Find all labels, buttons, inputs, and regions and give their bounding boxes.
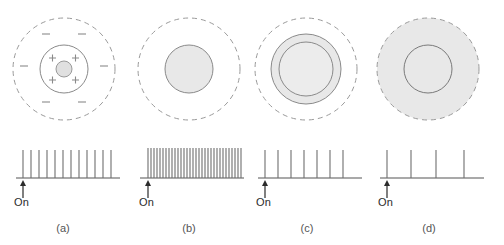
panel-c: On (c) xyxy=(244,0,370,245)
spike-train-c xyxy=(244,140,370,200)
stimulus-diagram-a xyxy=(0,8,126,130)
spikes-a xyxy=(23,150,111,178)
spikes-d xyxy=(387,150,464,178)
spike-train-a xyxy=(0,140,126,200)
onset-label-b: On xyxy=(139,196,154,208)
receptive-field-figure: On (a) xyxy=(0,0,504,245)
panel-label-b: (b) xyxy=(126,222,252,234)
onset-label-d: On xyxy=(378,196,393,208)
stimulus-diagram-b xyxy=(126,8,252,130)
panel-label-d: (d) xyxy=(366,222,492,234)
stimulus-diagram-d xyxy=(366,8,492,130)
spike-train-d xyxy=(366,140,492,200)
light-spot-c xyxy=(279,42,333,96)
spikes-c xyxy=(265,150,343,178)
panel-label-a: (a) xyxy=(0,222,126,234)
panel-a: On (a) xyxy=(0,0,126,245)
full-field-illumination-d xyxy=(377,18,479,120)
stimulus-diagram-c xyxy=(244,8,370,130)
spike-train-b xyxy=(126,140,252,200)
light-spot-b xyxy=(165,45,213,93)
onset-label-c: On xyxy=(256,196,271,208)
panel-b: On (b) xyxy=(126,0,252,245)
light-spot-a xyxy=(56,61,72,77)
panel-label-c: (c) xyxy=(244,222,370,234)
spikes-b xyxy=(148,148,241,178)
panel-d: On (d) xyxy=(366,0,492,245)
onset-label-a: On xyxy=(14,196,29,208)
